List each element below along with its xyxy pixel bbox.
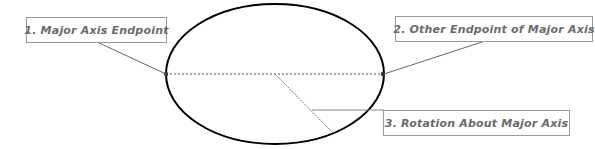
label-rotation: 3. Rotation About Major Axis	[383, 110, 570, 136]
leader-line-1	[97, 42, 166, 74]
label-other-endpoint: 2. Other Endpoint of Major Axis	[395, 16, 593, 42]
leader-line-2	[384, 41, 485, 74]
label-major-axis-endpoint: 1. Major Axis Endpoint	[26, 17, 167, 43]
rotation-line	[275, 74, 333, 133]
